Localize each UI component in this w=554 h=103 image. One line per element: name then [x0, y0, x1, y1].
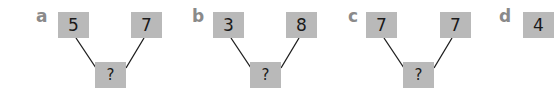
unknown-answer-box[interactable]: ?	[250, 62, 281, 88]
left-number-box: 4	[523, 12, 554, 38]
panel-label: b	[192, 6, 204, 26]
panel-label: a	[36, 6, 47, 26]
left-number-box: 5	[58, 12, 89, 38]
left-number-box: 7	[366, 12, 397, 38]
panel-a: a 5 7 ?	[0, 0, 180, 103]
unknown-answer-box[interactable]: ?	[95, 62, 126, 88]
panel-d: d 4	[460, 0, 535, 103]
left-number-box: 3	[213, 12, 244, 38]
unknown-answer-box[interactable]: ?	[403, 62, 434, 88]
panel-label: d	[499, 6, 511, 26]
panel-label: c	[348, 6, 358, 26]
